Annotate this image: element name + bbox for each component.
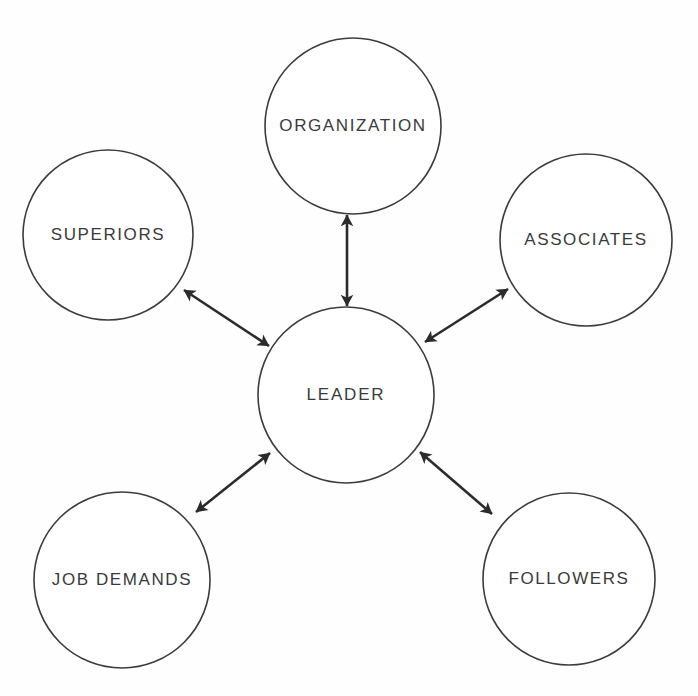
node-associates[interactable]: ASSOCIATES: [500, 154, 672, 326]
node-label-associates: ASSOCIATES: [524, 230, 647, 249]
relationship-diagram: ORGANIZATION SUPERIORS ASSOCIATES JOB DE…: [0, 0, 698, 696]
connector-leader-associates: [425, 289, 508, 342]
node-label-organization: ORGANIZATION: [279, 116, 426, 135]
node-label-job-demands: JOB DEMANDS: [52, 570, 192, 589]
connector-leader-followers: [420, 452, 492, 514]
node-label-leader: LEADER: [307, 385, 386, 404]
node-organization[interactable]: ORGANIZATION: [265, 38, 441, 214]
node-followers[interactable]: FOLLOWERS: [483, 493, 655, 665]
node-superiors[interactable]: SUPERIORS: [23, 150, 193, 320]
node-leader[interactable]: LEADER: [258, 307, 434, 483]
nodes-group: ORGANIZATION SUPERIORS ASSOCIATES JOB DE…: [23, 38, 672, 668]
node-label-superiors: SUPERIORS: [51, 225, 166, 244]
node-job-demands[interactable]: JOB DEMANDS: [34, 492, 210, 668]
node-label-followers: FOLLOWERS: [508, 569, 629, 588]
connector-leader-job-demands: [196, 453, 270, 512]
diagram-canvas: ORGANIZATION SUPERIORS ASSOCIATES JOB DE…: [0, 0, 698, 696]
connector-leader-superiors: [184, 290, 269, 346]
